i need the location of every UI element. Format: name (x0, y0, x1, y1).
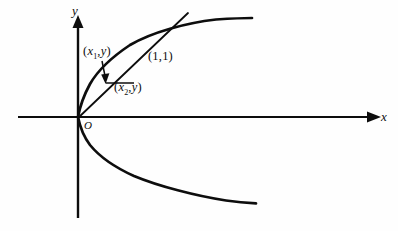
x-axis-label: x (381, 110, 387, 123)
origin-label: O (84, 120, 92, 131)
point-label-x1: (x1,y) (83, 45, 111, 61)
point-label-unit: (1,1) (148, 50, 173, 63)
curve-lower-branch (78, 117, 256, 203)
y-axis-label: y (72, 4, 78, 17)
figure-canvas (0, 0, 398, 231)
curve-upper-branch (78, 18, 252, 117)
x-axis-arrowhead-icon (367, 112, 381, 123)
point-label-x2: (x2,y) (114, 81, 142, 97)
math-figure: y x O (x1,y) (x2,y) (1,1) (0, 0, 398, 231)
paren-close: ) (106, 44, 110, 58)
secant-line (78, 13, 188, 118)
paren-close: ) (137, 80, 141, 94)
